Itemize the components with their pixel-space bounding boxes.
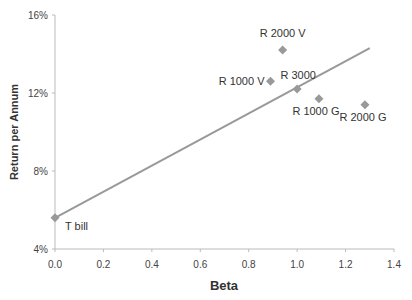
- point-label: T bill: [65, 220, 88, 232]
- diamond-marker: [314, 94, 323, 103]
- x-tick-label: 1.4: [387, 259, 401, 270]
- diamond-marker: [278, 46, 287, 55]
- diamond-marker: [360, 100, 369, 109]
- point-label: R 1000 V: [219, 75, 266, 87]
- x-tick-label: 1.2: [339, 259, 353, 270]
- scatter-chart: 0.00.20.40.60.81.01.21.44%8%12%16% T bil…: [0, 0, 412, 300]
- point-label: R 2000 G: [339, 111, 386, 123]
- x-axis-title: Beta: [210, 278, 239, 293]
- point-label: R 2000 V: [260, 27, 307, 39]
- x-tick-label: 1.0: [290, 259, 304, 270]
- point-label: R 3000: [280, 69, 315, 81]
- diamond-marker: [51, 213, 60, 222]
- x-tick-label: 0.4: [145, 259, 159, 270]
- x-tick-label: 0.0: [48, 259, 62, 270]
- y-axis-title: Return per Annum: [8, 84, 20, 180]
- x-tick-label: 0.8: [242, 259, 256, 270]
- point-label: R 1000 G: [292, 105, 339, 117]
- sml-line: [55, 48, 370, 218]
- x-tick-label: 0.6: [193, 259, 207, 270]
- x-tick-label: 0.2: [96, 259, 110, 270]
- y-tick-label: 4%: [34, 244, 49, 255]
- y-tick-label: 12%: [28, 88, 48, 99]
- diamond-marker: [266, 77, 275, 86]
- y-tick-label: 16%: [28, 10, 48, 21]
- security-market-line: [55, 48, 370, 218]
- y-tick-label: 8%: [34, 166, 49, 177]
